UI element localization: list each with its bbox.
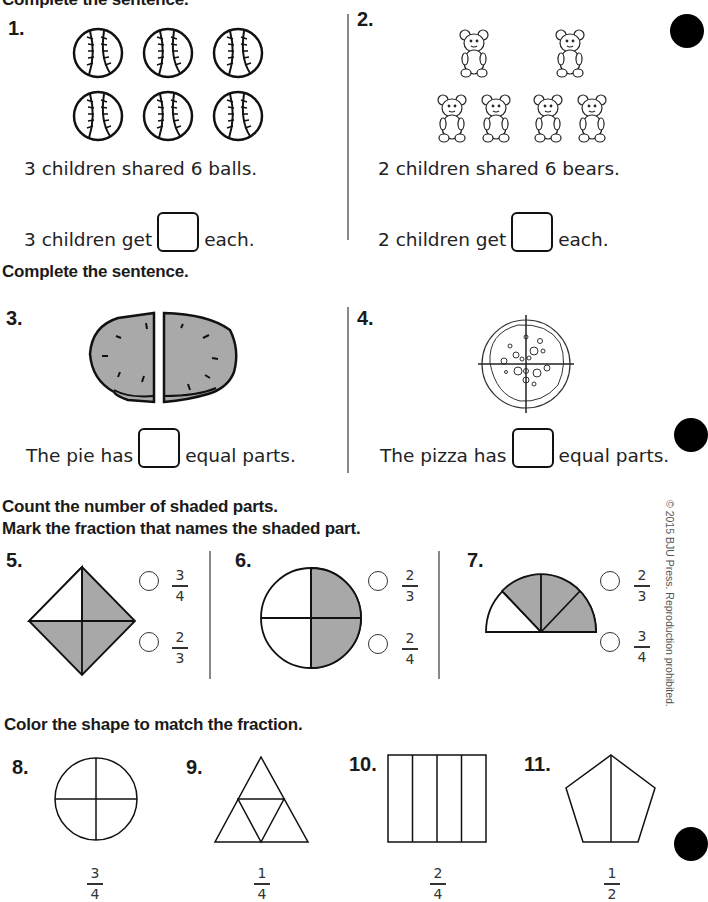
section-heading: Color the shape to match the fraction.: [4, 715, 302, 735]
option-radio[interactable]: [139, 571, 159, 591]
option-radio[interactable]: [368, 571, 388, 591]
option-radio[interactable]: [139, 632, 159, 652]
teddy-bear-icon: [460, 30, 488, 77]
pentagon-halves-shape[interactable]: [565, 754, 665, 849]
answer-suffix: each.: [558, 229, 609, 250]
binder-hole: [670, 14, 704, 48]
answer-box[interactable]: [511, 212, 553, 252]
problem-number: 3.: [6, 307, 23, 330]
fraction-label: 24: [430, 866, 446, 902]
teddy-bear-icon: [438, 95, 466, 142]
answer-suffix: equal parts.: [559, 445, 670, 466]
problem-number: 5.: [6, 549, 23, 572]
triangle-quarters-shape[interactable]: [214, 756, 314, 846]
fraction-label: 34: [87, 866, 103, 902]
divider: [347, 14, 349, 240]
problem-number: 7.: [467, 549, 484, 572]
circle-quarters-shape[interactable]: [54, 757, 144, 847]
answer-sentence: The pizza hasequal parts.: [380, 428, 669, 468]
answer-sentence: 3 children geteach.: [24, 212, 255, 252]
section-heading: Count the number of shaded parts.: [2, 497, 278, 517]
divider: [347, 307, 349, 473]
answer-prefix: 3 children get: [24, 229, 152, 250]
problem-number: 2.: [357, 8, 374, 31]
option-radio[interactable]: [600, 571, 620, 591]
answer-prefix: 2 children get: [378, 229, 506, 250]
fraction-label: 12: [604, 866, 620, 902]
binder-hole: [674, 827, 708, 861]
problem-number: 1.: [8, 17, 25, 40]
answer-box[interactable]: [157, 212, 199, 252]
answer-prefix: The pie has: [26, 445, 133, 466]
answer-sentence: 2 children geteach.: [378, 212, 609, 252]
baseball-icon: [74, 29, 122, 77]
answer-suffix: equal parts.: [185, 445, 296, 466]
baseball-icon: [144, 92, 192, 140]
problem-number: 10.: [349, 753, 377, 776]
section-heading: Mark the fraction that names the shaded …: [2, 519, 360, 539]
diamond-shape: [29, 567, 139, 677]
answer-suffix: each.: [204, 229, 255, 250]
fraction-label: 24: [402, 631, 418, 667]
pizza-image: [478, 313, 578, 413]
copyright-notice: © 2015 BJU Press. Reproduction prohibite…: [664, 500, 676, 707]
fraction-label: 34: [172, 568, 188, 604]
teddy-bear-icon: [556, 30, 584, 77]
circle-shape: [259, 566, 369, 676]
problem-number: 8.: [12, 756, 29, 779]
section-heading: Complete the sentence.: [2, 262, 188, 282]
baseball-icon: [74, 92, 122, 140]
baseball-group: [70, 25, 300, 145]
fraction-label: 23: [172, 630, 188, 666]
answer-box[interactable]: [138, 428, 180, 468]
fraction-label: 23: [402, 568, 418, 604]
teddy-bear-icon: [534, 95, 562, 142]
option-radio[interactable]: [600, 632, 620, 652]
pie-image: [88, 310, 248, 410]
section-heading-top: Complete the sentence.: [2, 0, 188, 10]
fraction-label: 34: [634, 629, 650, 665]
problem-sentence: 3 children shared 6 balls.: [24, 158, 257, 179]
baseball-icon: [214, 92, 262, 140]
teddy-bear-group: [430, 25, 630, 155]
answer-prefix: The pizza has: [380, 445, 507, 466]
binder-hole: [674, 418, 708, 452]
problem-number: 6.: [235, 549, 252, 572]
divider: [438, 551, 440, 679]
teddy-bear-icon: [482, 95, 510, 142]
half-circle-shape: [485, 575, 605, 645]
option-radio[interactable]: [368, 634, 388, 654]
problem-number: 4.: [357, 307, 374, 330]
teddy-bear-icon: [578, 95, 606, 142]
baseball-icon: [214, 29, 262, 77]
problem-number: 9.: [186, 756, 203, 779]
rectangle-fourths-shape[interactable]: [387, 754, 487, 844]
fraction-label: 23: [634, 568, 650, 604]
problem-number: 11.: [524, 753, 551, 776]
fraction-label: 14: [254, 866, 270, 902]
answer-box[interactable]: [512, 428, 554, 468]
baseball-icon: [144, 29, 192, 77]
problem-sentence: 2 children shared 6 bears.: [378, 158, 620, 179]
divider: [209, 551, 211, 679]
answer-sentence: The pie hasequal parts.: [26, 428, 296, 468]
